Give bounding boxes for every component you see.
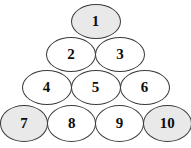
ellipse-node: 7	[0, 105, 48, 142]
ellipse-node: 10	[143, 105, 191, 142]
ellipse-node: 5	[71, 70, 121, 105]
ellipse-node-label: 4	[43, 80, 51, 95]
ellipse-pyramid-diagram: 1 2 3 4 5 6 7 8 9 10	[0, 0, 191, 148]
ellipse-node-label: 5	[92, 80, 100, 95]
ellipse-node-label: 6	[141, 80, 149, 95]
ellipse-node: 1	[71, 4, 121, 39]
ellipse-node: 2	[46, 37, 96, 72]
ellipse-node-label: 7	[20, 116, 28, 131]
ellipse-node: 4	[22, 70, 72, 105]
ellipse-node-label: 1	[92, 14, 100, 29]
ellipse-node: 6	[120, 70, 170, 105]
ellipse-node: 3	[95, 37, 145, 72]
ellipse-node-label: 9	[116, 116, 124, 131]
pyramid-row-3: 4 5 6	[0, 69, 191, 105]
ellipse-node-label: 3	[116, 47, 124, 62]
ellipse-node: 9	[95, 105, 144, 142]
pyramid-row-4: 7 8 9 10	[0, 105, 191, 141]
pyramid-row-2: 2 3	[0, 36, 191, 72]
pyramid-row-1: 1	[0, 3, 191, 39]
ellipse-node-label: 10	[160, 116, 175, 131]
ellipse-node: 8	[47, 105, 96, 142]
ellipse-node-label: 8	[68, 116, 76, 131]
ellipse-node-label: 2	[67, 47, 75, 62]
